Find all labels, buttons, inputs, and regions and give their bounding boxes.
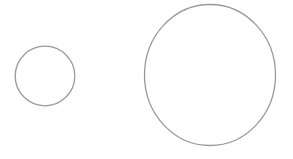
small-circle	[15, 46, 75, 106]
drawing-canvas	[0, 0, 293, 159]
two-circles-figure	[0, 0, 293, 159]
large-circle	[145, 5, 276, 146]
